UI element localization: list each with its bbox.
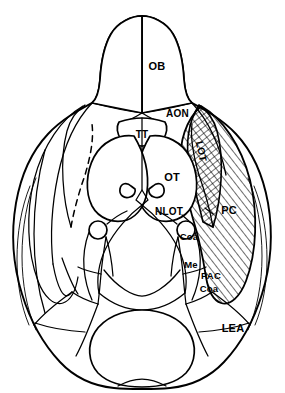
label-lea: LEA: [222, 322, 245, 334]
label-nlot: NLOT: [155, 206, 183, 217]
brain-diagram-figure: OB AON TT LOT OT NLOT PC Coa Me PAC Coa …: [0, 0, 285, 393]
brain-ventral-view-svg: OB AON TT LOT OT NLOT PC Coa Me PAC Coa …: [0, 0, 285, 393]
label-ot: OT: [164, 171, 180, 183]
label-me: Me: [184, 259, 198, 270]
label-coa-lower: Coa: [200, 283, 219, 294]
label-pac: PAC: [201, 270, 221, 281]
brainstem-oval: [90, 310, 195, 387]
label-aon: AON: [166, 108, 189, 119]
label-pc: PC: [221, 204, 237, 216]
olfactory-bulb-region: [92, 16, 192, 113]
label-coa-upper: Coa: [180, 231, 199, 242]
label-tt: TT: [136, 129, 149, 140]
label-ob: OB: [149, 60, 166, 72]
nlot-circle-left: [89, 221, 107, 239]
